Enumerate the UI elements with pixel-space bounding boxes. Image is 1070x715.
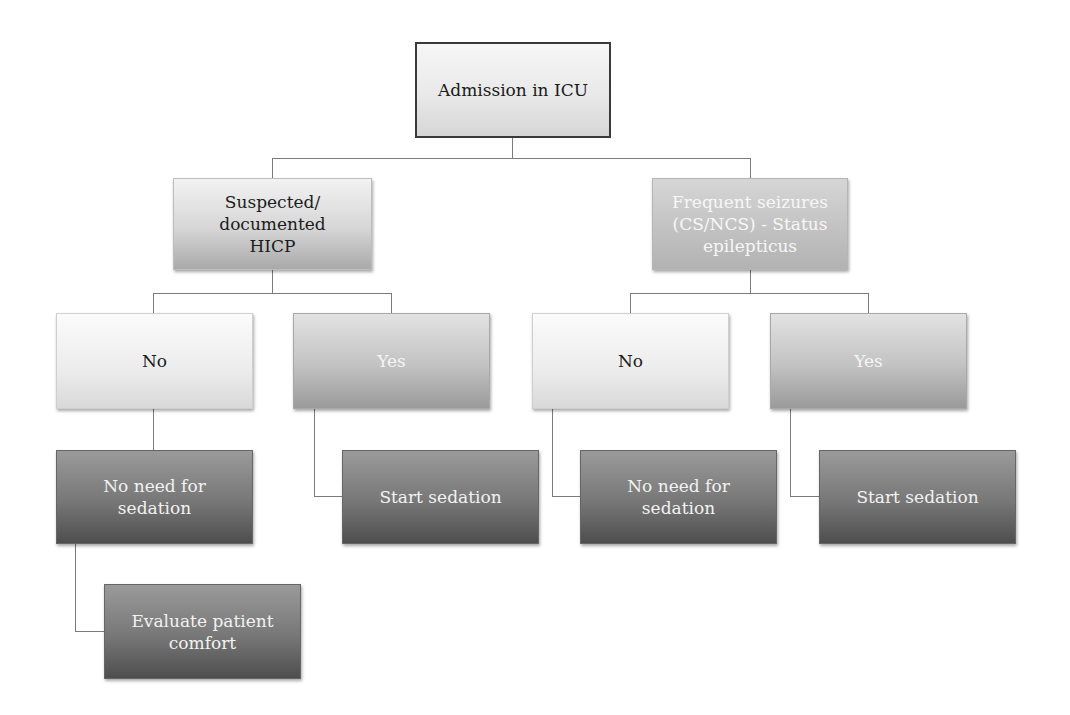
node-label: Admission in ICU bbox=[438, 79, 588, 101]
node-seizures-yes: Yes bbox=[770, 313, 967, 409]
node-label: No need for sedation bbox=[93, 475, 216, 519]
connector-yes1-down bbox=[314, 408, 315, 496]
connector-hicp-yes bbox=[391, 293, 392, 313]
node-hicp-yes: Yes bbox=[293, 313, 490, 409]
node-label: Start sedation bbox=[379, 486, 501, 508]
connector-noneed1-right bbox=[75, 631, 104, 632]
node-label: No bbox=[142, 350, 167, 372]
connector-to-seizures bbox=[750, 158, 751, 178]
connector-yes2-right bbox=[790, 496, 819, 497]
node-seizures-no: No bbox=[532, 313, 729, 409]
connector-hicp-no bbox=[153, 293, 154, 313]
node-hicp-no: No bbox=[56, 313, 253, 409]
connector-hicp-bar bbox=[153, 293, 392, 294]
connector-root-stem bbox=[512, 137, 513, 158]
node-admission-icu: Admission in ICU bbox=[415, 42, 611, 138]
node-label: Suspected/ documented HICP bbox=[194, 191, 351, 257]
connector-seizures-yes bbox=[868, 293, 869, 313]
node-label: No need for sedation bbox=[617, 475, 740, 519]
node-hicp-start-sedation: Start sedation bbox=[342, 450, 539, 544]
node-seizures-no-need-sedation: No need for sedation bbox=[580, 450, 777, 544]
connector-no2-down bbox=[552, 408, 553, 496]
node-label: Start sedation bbox=[856, 486, 978, 508]
connector-seizures-no bbox=[630, 293, 631, 313]
node-seizures-start-sedation: Start sedation bbox=[819, 450, 1016, 544]
connector-seizures-bar bbox=[630, 293, 869, 294]
connector-to-hicp bbox=[272, 158, 273, 178]
node-label: Yes bbox=[854, 350, 883, 372]
node-label: Yes bbox=[377, 350, 406, 372]
connector-noneed1-down bbox=[75, 543, 76, 631]
connector-seizures-stem bbox=[750, 270, 751, 293]
node-label: No bbox=[618, 350, 643, 372]
node-label: Frequent seizures (CS/NCS) - Status epil… bbox=[661, 191, 839, 257]
node-suspected-hicp: Suspected/ documented HICP bbox=[173, 178, 372, 270]
node-evaluate-patient-comfort: Evaluate patient comfort bbox=[104, 584, 301, 679]
node-label: Evaluate patient comfort bbox=[129, 610, 276, 654]
connector-no2-right bbox=[552, 496, 580, 497]
connector-yes1-right bbox=[314, 496, 342, 497]
connector-hicp-stem bbox=[272, 270, 273, 293]
node-hicp-no-need-sedation: No need for sedation bbox=[56, 450, 253, 544]
connector-no1-down bbox=[153, 408, 154, 450]
node-frequent-seizures: Frequent seizures (CS/NCS) - Status epil… bbox=[652, 178, 848, 270]
connector-root-bar bbox=[272, 158, 751, 159]
connector-yes2-down bbox=[790, 408, 791, 496]
